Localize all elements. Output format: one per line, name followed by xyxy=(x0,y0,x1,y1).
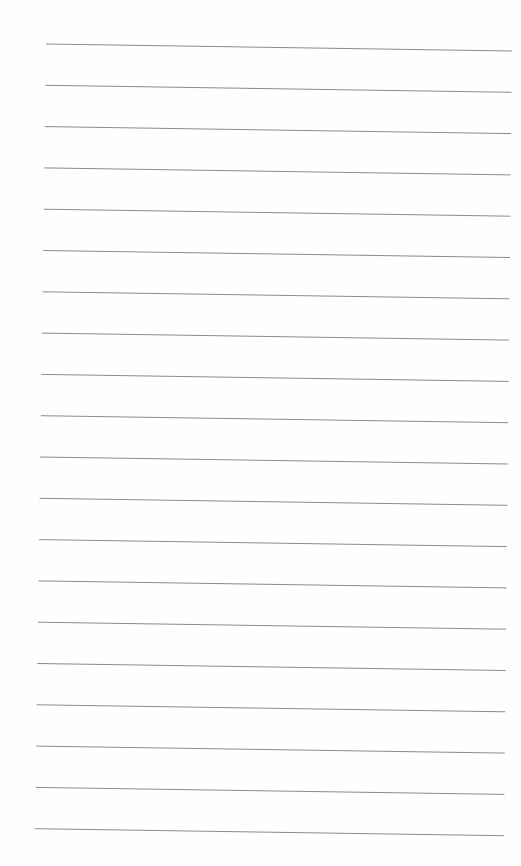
ruled-line xyxy=(44,209,511,216)
ruled-line xyxy=(40,457,508,464)
ruled-line xyxy=(38,622,506,629)
ruled-line xyxy=(41,374,508,381)
ruled-line xyxy=(46,44,512,51)
ruled-line xyxy=(45,85,511,92)
ruled-line xyxy=(36,787,505,794)
ruled-line xyxy=(38,581,506,588)
lined-paper-page xyxy=(0,0,521,866)
ruled-line xyxy=(42,333,509,340)
ruled-line xyxy=(41,416,508,423)
ruled-line xyxy=(35,829,504,836)
ruled-line xyxy=(45,127,511,134)
ruled-line xyxy=(37,705,506,712)
ruled-line xyxy=(36,746,505,753)
ruled-line xyxy=(43,292,510,299)
ruled-lines xyxy=(0,0,521,866)
ruled-line xyxy=(37,664,505,671)
ruled-line xyxy=(40,498,508,505)
ruled-line xyxy=(39,540,507,547)
ruled-line xyxy=(44,168,510,175)
ruled-line xyxy=(43,251,510,258)
